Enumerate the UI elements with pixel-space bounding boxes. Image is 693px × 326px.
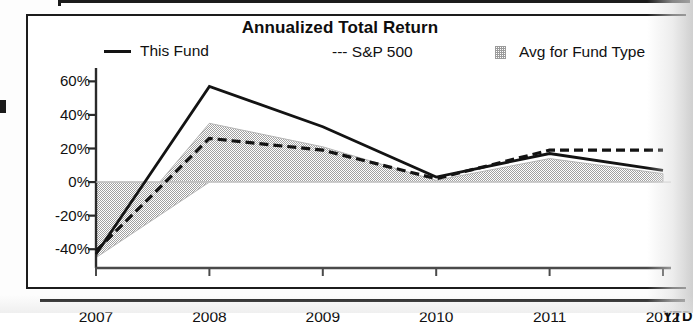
area-fill-negative-avg-fund-type [96,182,209,258]
x-axis-suffix-ytd: YTD [663,308,693,324]
x-axis-labels: 200720082009201020112012 [28,308,688,326]
page-left-edge-mark [0,100,6,113]
x-tick-label: 2010 [406,308,466,326]
chart-panel: Annualized Total Return This Fund --- S&… [26,14,686,289]
x-tick-label: 2007 [66,308,126,326]
page-top-rule [58,0,690,3]
chart-title: Annualized Total Return [28,18,652,38]
x-tick-label: 2008 [179,308,239,326]
page-bottom-rule [40,299,685,302]
series-area-avg-fund-type [96,123,663,257]
chart-canvas [28,56,688,288]
page-top-rule-corner [58,0,61,6]
x-tick-label: 2009 [293,308,353,326]
plot-area: 60%40%20%0%-20%-40% 20072008200920102011… [28,56,688,288]
solid-line-swatch-icon [104,50,131,53]
x-tick-label: 2011 [520,308,580,326]
